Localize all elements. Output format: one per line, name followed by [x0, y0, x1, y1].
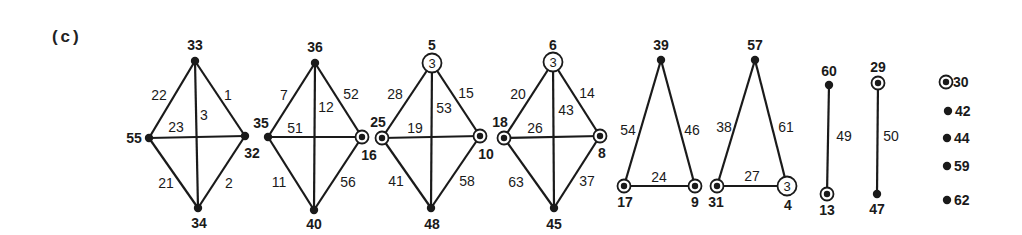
edge-label: 49 [836, 128, 852, 144]
edge-label: 37 [579, 173, 595, 189]
edge-label: 12 [318, 99, 334, 115]
graph-node [711, 180, 724, 193]
edge-label: 38 [716, 119, 732, 135]
graph-node [618, 180, 631, 193]
node-label: 44 [954, 130, 970, 146]
edge-label: 50 [883, 128, 899, 144]
node-dot-icon [311, 59, 319, 67]
node-label: 33 [187, 37, 203, 53]
edge-label: 26 [527, 120, 543, 136]
edge-line [195, 61, 198, 208]
node-dot-icon [597, 133, 603, 139]
node-dot-icon [241, 132, 249, 140]
segment-1: 496013 [819, 63, 852, 218]
diamond-1: 22132321233553234 [126, 37, 260, 231]
edge-line [877, 83, 878, 194]
node-label: 42 [955, 103, 971, 119]
edge-line [431, 63, 432, 208]
graph-node [241, 132, 249, 140]
edge-label: 2 [225, 175, 233, 191]
node-dot-icon [943, 79, 949, 85]
diamond-3: 28155319415835251048 [370, 37, 494, 232]
node-label: 55 [126, 130, 142, 146]
node-label: 32 [244, 145, 260, 161]
edge-label: 21 [158, 175, 174, 191]
node-label: 4 [784, 197, 792, 213]
edge-label: 23 [168, 119, 184, 135]
node-label: 59 [954, 158, 970, 174]
graph-node [825, 81, 833, 89]
edge-label: 53 [436, 100, 452, 116]
node-dot-icon [379, 135, 385, 141]
graph-node [356, 131, 369, 144]
node-label: 6 [549, 37, 557, 53]
node-label: 10 [478, 146, 494, 162]
edge-label: 41 [388, 173, 404, 189]
graph-node: 3 [423, 54, 442, 73]
edge-line [827, 85, 829, 194]
edge-label: 51 [287, 120, 303, 136]
edge-line [382, 136, 480, 138]
graph-node: 3 [544, 53, 563, 72]
node-dot-icon [751, 56, 759, 64]
graph-node [751, 56, 759, 64]
node-dot-icon [943, 196, 951, 204]
graph-node [657, 56, 665, 64]
edge-label: 19 [407, 120, 423, 136]
node-inner-value: 3 [549, 55, 556, 70]
graph-node [594, 130, 607, 143]
edge-line [149, 138, 198, 208]
edge-label: 27 [744, 168, 760, 184]
node-label: 62 [954, 192, 970, 208]
edge-label: 20 [510, 86, 526, 102]
node-label: 39 [653, 37, 669, 53]
diamond-4: 2014432663373618845 [492, 37, 606, 232]
edge-label: 46 [684, 122, 700, 138]
node-dot-icon [145, 134, 153, 142]
node-dot-icon [310, 206, 318, 214]
edge-line [554, 136, 600, 208]
isolated-node: 44 [943, 130, 970, 146]
node-dot-icon [621, 183, 627, 189]
edge-label: 15 [458, 85, 474, 101]
node-dot-icon [825, 81, 833, 89]
node-label: 8 [598, 145, 606, 161]
edge-label: 1 [224, 87, 232, 103]
edge-line [504, 136, 600, 138]
node-label: 29 [870, 59, 886, 75]
node-dot-icon [194, 204, 202, 212]
node-label: 25 [370, 114, 386, 130]
edge-line [195, 61, 245, 136]
graph-node [873, 190, 881, 198]
edge-line [198, 136, 245, 208]
isolated-node: 42 [944, 103, 971, 119]
node-label: 35 [253, 115, 269, 131]
node-label: 57 [747, 37, 763, 53]
isolated-nodes: 3042445962 [940, 74, 971, 208]
graph-components: 2213232123355323475212511156363516402815… [126, 37, 899, 232]
edge-label: 61 [778, 119, 794, 135]
graph-figure: (c) 221323212335532347521251115636351640… [0, 0, 1022, 235]
node-dot-icon [657, 56, 665, 64]
node-dot-icon [501, 135, 507, 141]
segment-2: 502947 [869, 59, 899, 217]
edge-label: 54 [620, 122, 636, 138]
graph-node: 3 [778, 177, 797, 196]
graph-node [427, 204, 435, 212]
graph-node [689, 180, 702, 193]
node-dot-icon [477, 133, 483, 139]
node-label: 18 [492, 114, 508, 130]
edge-label: 43 [558, 102, 574, 118]
node-label: 31 [708, 194, 724, 210]
node-dot-icon [191, 57, 199, 65]
edge-label: 63 [508, 174, 524, 190]
node-label: 48 [424, 216, 440, 232]
node-dot-icon [943, 162, 951, 170]
node-label: 36 [307, 39, 323, 55]
node-dot-icon [359, 134, 365, 140]
node-label: 13 [819, 202, 835, 218]
node-dot-icon [824, 191, 830, 197]
edge-line [431, 136, 480, 208]
node-label: 5 [428, 37, 436, 53]
node-dot-icon [875, 80, 881, 86]
